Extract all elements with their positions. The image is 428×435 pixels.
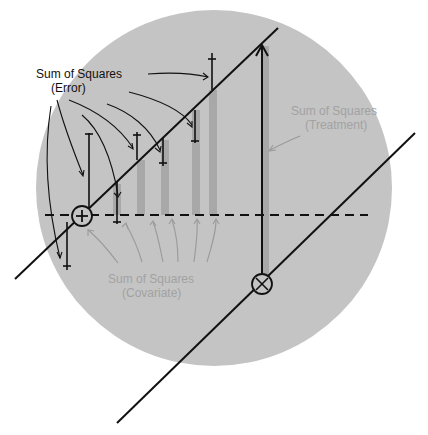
covariate-bar bbox=[209, 90, 217, 215]
covariate-label-line1: Sum of Squares bbox=[108, 272, 194, 286]
treatment-bar bbox=[263, 46, 269, 274]
circle-plus-icon bbox=[72, 206, 92, 226]
error-label-line1: Sum of Squares bbox=[36, 67, 122, 81]
treatment-label-line2: (Treatment) bbox=[305, 118, 367, 132]
circle-times-icon bbox=[252, 274, 272, 294]
covariate-label-line2: (Covariate) bbox=[122, 286, 181, 300]
error-label-line2: (Error) bbox=[51, 81, 86, 95]
covariate-bar bbox=[192, 110, 200, 215]
covariate-bar bbox=[137, 160, 145, 215]
ancova-diagram: Sum of Squares (Error) Sum of Squares (T… bbox=[0, 0, 428, 435]
treatment-label-line1: Sum of Squares bbox=[291, 104, 377, 118]
